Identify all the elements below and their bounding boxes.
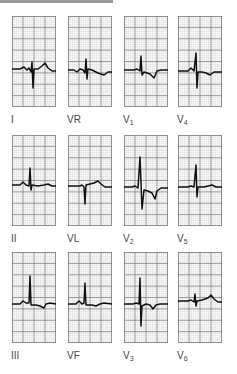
- lead-label-v4: V4: [177, 115, 188, 128]
- lead-label-v3: V3: [123, 351, 134, 364]
- lead-label-subscript: 6: [184, 355, 188, 362]
- top-rule: [0, 0, 113, 3]
- lead-label-text: III: [11, 350, 19, 361]
- lead-label-v1: V1: [123, 115, 134, 128]
- lead-panel-v6: [178, 252, 222, 343]
- lead-label-vl: VL: [67, 234, 79, 244]
- ecg-trace-v1: [124, 16, 168, 107]
- ecg-trace-vr: [68, 16, 112, 107]
- lead-label-vr: VR: [67, 115, 81, 125]
- ecg-trace-v5: [178, 135, 222, 226]
- lead-label-text: I: [11, 114, 14, 125]
- lead-panel-v2: [124, 135, 168, 226]
- lead-label-vf: VF: [67, 351, 80, 361]
- lead-label-subscript: 5: [184, 238, 188, 245]
- lead-label-text: V: [177, 350, 184, 361]
- lead-label-text: V: [177, 233, 184, 244]
- lead-panel-v5: [178, 135, 222, 226]
- ecg-trace-iii: [12, 252, 56, 343]
- ecg-trace-ii: [12, 135, 56, 226]
- lead-label-text: VR: [67, 114, 81, 125]
- lead-panel-v4: [178, 16, 222, 107]
- ecg-trace-vl: [68, 135, 112, 226]
- lead-panel-v1: [124, 16, 168, 107]
- ecg-trace-i: [12, 16, 56, 107]
- lead-panel-vf: [68, 252, 112, 343]
- lead-label-iii: III: [11, 351, 19, 361]
- ecg-trace-v4: [178, 16, 222, 107]
- lead-label-text: II: [11, 233, 17, 244]
- lead-label-text: V: [123, 350, 130, 361]
- lead-label-i: I: [11, 115, 14, 125]
- lead-label-ii: II: [11, 234, 17, 244]
- lead-label-v6: V6: [177, 351, 188, 364]
- lead-label-subscript: 2: [130, 238, 134, 245]
- lead-panel-i: [12, 16, 56, 107]
- lead-label-subscript: 4: [184, 119, 188, 126]
- lead-label-text: V: [177, 114, 184, 125]
- lead-panel-vr: [68, 16, 112, 107]
- lead-panel-ii: [12, 135, 56, 226]
- ecg-trace-vf: [68, 252, 112, 343]
- lead-panel-vl: [68, 135, 112, 226]
- ecg-trace-v2: [124, 135, 168, 226]
- ecg-trace-v6: [178, 252, 222, 343]
- lead-label-v2: V2: [123, 234, 134, 247]
- lead-label-text: VF: [67, 350, 80, 361]
- ecg-trace-v3: [124, 252, 168, 343]
- lead-panel-iii: [12, 252, 56, 343]
- lead-label-text: V: [123, 233, 130, 244]
- lead-label-v5: V5: [177, 234, 188, 247]
- lead-label-subscript: 3: [130, 355, 134, 362]
- lead-label-subscript: 1: [130, 119, 134, 126]
- lead-label-text: VL: [67, 233, 79, 244]
- lead-label-text: V: [123, 114, 130, 125]
- lead-panel-v3: [124, 252, 168, 343]
